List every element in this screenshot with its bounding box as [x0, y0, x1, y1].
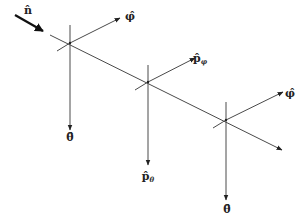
- node-3-down-label: θ̂: [223, 203, 230, 216]
- node-2-cross-stub: [135, 82, 148, 90]
- incident-n-arrow: [15, 15, 43, 31]
- n-hat-label: n̂: [24, 4, 32, 17]
- node-2-center-dot: [147, 81, 149, 83]
- node-1-cross-stub: [57, 43, 70, 51]
- diagram-canvas: n̂θ̂φ̂p̂θp̂φθ̂φ̂: [0, 0, 303, 221]
- node-3-side-arrow: [226, 92, 283, 120]
- node-2-down-label: p̂θ: [142, 170, 155, 184]
- node-3-center-dot: [225, 119, 227, 121]
- node-1-side-arrow: [70, 18, 120, 43]
- node-2-side-label: p̂φ: [193, 52, 208, 66]
- vector-diagram: n̂θ̂φ̂p̂θp̂φθ̂φ̂: [0, 0, 303, 221]
- node-2-side-arrow: [148, 58, 195, 82]
- node-1-center-dot: [69, 42, 71, 44]
- node-1-side-label: φ̂: [125, 10, 135, 23]
- node-3-cross-stub: [213, 120, 226, 128]
- node-1-down-label: θ̂: [66, 131, 73, 144]
- propagation-axis-arrow: [50, 35, 282, 150]
- node-3-side-label: φ̂: [285, 87, 295, 100]
